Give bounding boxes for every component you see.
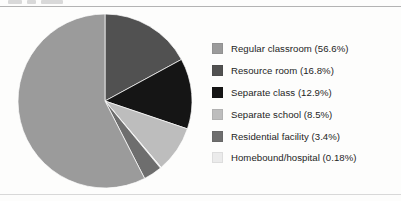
top-rule: [0, 6, 401, 7]
legend-item[interactable]: Resource room (16.8%): [212, 60, 392, 82]
legend-swatch-icon: [212, 43, 223, 54]
legend-swatch-icon: [212, 152, 223, 163]
legend-item-label: Resource room (16.8%): [231, 65, 334, 76]
legend-item-label: Residential facility (3.4%): [231, 131, 340, 142]
legend-item[interactable]: Homebound/hospital (0.18%): [212, 147, 392, 169]
pie-slice-group: [18, 14, 192, 188]
legend-item[interactable]: Regular classroom (56.6%): [212, 38, 392, 60]
legend-swatch-icon: [212, 109, 223, 120]
cropped-text-remnant: [8, 0, 128, 5]
legend-item-label: Separate class (12.9%): [231, 87, 332, 98]
legend-item-label: Separate school (8.5%): [231, 109, 332, 120]
legend-item-label: Homebound/hospital (0.18%): [231, 152, 357, 163]
legend-item[interactable]: Separate school (8.5%): [212, 103, 392, 125]
legend-item[interactable]: Residential facility (3.4%): [212, 125, 392, 147]
legend-item-label: Regular classroom (56.6%): [231, 43, 349, 54]
legend-swatch-icon: [212, 65, 223, 76]
legend-swatch-icon: [212, 87, 223, 98]
pie-chart-svg: [18, 14, 192, 188]
bottom-rule: [0, 194, 401, 195]
pie-chart: [18, 14, 192, 188]
legend-swatch-icon: [212, 131, 223, 142]
figure-container: Regular classroom (56.6%) Resource room …: [0, 0, 401, 201]
chart-legend: Regular classroom (56.6%) Resource room …: [212, 38, 392, 169]
legend-item[interactable]: Separate class (12.9%): [212, 82, 392, 104]
